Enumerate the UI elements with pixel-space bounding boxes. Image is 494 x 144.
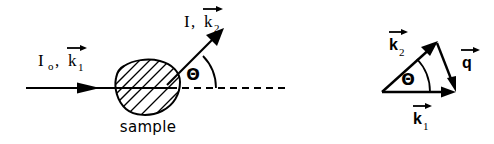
q-label-arrowhead bbox=[473, 47, 480, 53]
scattered-beam-label-group: I , k 2 bbox=[184, 6, 223, 34]
incident-intensity-label: I bbox=[38, 51, 44, 70]
k1-label-group: k 1 bbox=[413, 103, 432, 132]
scattering-angle-arc bbox=[203, 56, 216, 88]
incident-wavevector-label: k bbox=[68, 51, 77, 70]
incident-label-separator: , bbox=[55, 51, 59, 70]
scattered-wavevector-label: k bbox=[204, 12, 213, 31]
scattering-angle-label: Θ bbox=[186, 65, 200, 84]
scattered-wavevector-subscript: 2 bbox=[214, 22, 220, 34]
k1-vector-label: k bbox=[413, 110, 422, 127]
scattering-diagram-svg: Θ I o , k 1 I , k 2 sampl bbox=[0, 0, 494, 144]
k2-label-group: k 2 bbox=[389, 29, 408, 58]
triangle-angle-arc bbox=[417, 59, 430, 92]
k1-vector-subscript: 1 bbox=[423, 120, 429, 132]
triangle-angle-label: Θ bbox=[401, 70, 415, 89]
incident-beam-arrowhead bbox=[77, 83, 100, 94]
wavevector-triangle-panel: Θ k 2 k 1 q bbox=[382, 29, 480, 132]
scattered-label-separator: , bbox=[191, 12, 195, 31]
q-vector-label: q bbox=[462, 54, 472, 71]
scattered-vector-arrowhead bbox=[216, 6, 223, 12]
k2-vector-subscript: 2 bbox=[399, 46, 405, 58]
incident-intensity-subscript: o bbox=[48, 60, 54, 72]
incident-beam-label-group: I o , k 1 bbox=[38, 45, 87, 73]
figure-root: Θ I o , k 1 I , k 2 sampl bbox=[0, 0, 494, 144]
scattered-intensity-label: I bbox=[184, 12, 190, 31]
incident-wavevector-subscript: 1 bbox=[78, 61, 84, 73]
sample-caption: sample bbox=[120, 118, 176, 136]
q-label-group: q bbox=[461, 47, 480, 71]
k2-vector-label: k bbox=[389, 36, 398, 53]
k1-label-arrowhead bbox=[425, 103, 432, 109]
k2-label-arrowhead bbox=[401, 29, 408, 35]
scattering-geometry-panel: Θ I o , k 1 I , k 2 sampl bbox=[26, 6, 290, 142]
incident-vector-arrowhead bbox=[80, 45, 87, 51]
